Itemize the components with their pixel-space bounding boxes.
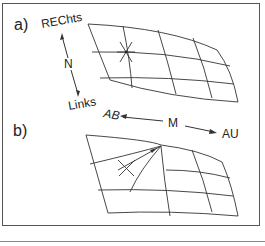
axis-label-ab: AB bbox=[101, 106, 120, 123]
bottom-rule bbox=[0, 241, 265, 242]
point-marker-a bbox=[117, 42, 135, 62]
axis-label-rechts: REChts bbox=[40, 10, 83, 31]
axis-label-links: Links bbox=[67, 94, 97, 113]
axis-label-au: AU bbox=[222, 127, 239, 141]
panel-a-label: a) bbox=[14, 16, 28, 33]
grid-b bbox=[86, 135, 238, 216]
axis-label-n: N bbox=[64, 57, 73, 71]
point-marker-b bbox=[118, 160, 135, 176]
axis-label-m: M bbox=[168, 116, 178, 130]
grid-a bbox=[88, 24, 238, 102]
diagram-canvas: a) REChts N Links AB M AU b) bbox=[0, 0, 265, 246]
panel-b-label: b) bbox=[13, 122, 27, 139]
